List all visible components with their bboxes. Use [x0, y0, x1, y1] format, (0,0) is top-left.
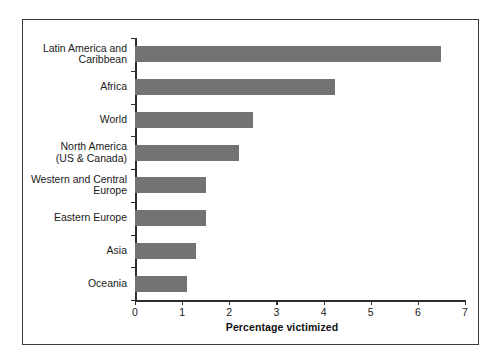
- bar[interactable]: [135, 177, 206, 193]
- bar-row: [135, 104, 465, 137]
- y-axis-category-label: Asia: [0, 245, 127, 257]
- bar[interactable]: [135, 145, 239, 161]
- x-axis-tick-label: 6: [406, 306, 430, 318]
- y-axis-category-label: Eastern Europe: [0, 212, 127, 224]
- bar-row: [135, 267, 465, 300]
- y-axis-tick: [131, 104, 136, 105]
- x-axis-line: [135, 300, 466, 302]
- y-axis-tick: [131, 38, 136, 39]
- x-axis-tick-label: 3: [264, 306, 288, 318]
- x-axis-tick-label: 7: [453, 306, 477, 318]
- bar-row: [135, 71, 465, 104]
- bar[interactable]: [135, 112, 253, 128]
- bar-row: [135, 136, 465, 169]
- y-axis-category-label: World: [0, 114, 127, 126]
- figure: Percentage victimized Latin America and …: [0, 0, 496, 364]
- x-axis-tick: [371, 300, 372, 305]
- y-axis-category-label: Africa: [0, 81, 127, 93]
- x-axis-tick: [182, 300, 183, 305]
- y-axis-category-label: Latin America and Caribbean: [0, 43, 127, 66]
- x-axis-title: Percentage victimized: [0, 321, 496, 333]
- x-axis-tick-label: 5: [359, 306, 383, 318]
- x-axis-tick: [418, 300, 419, 305]
- bar[interactable]: [135, 46, 441, 62]
- bar[interactable]: [135, 243, 196, 259]
- y-axis-tick: [131, 136, 136, 137]
- x-axis-tick-label: 2: [217, 306, 241, 318]
- x-axis-tick-label: 4: [312, 306, 336, 318]
- y-axis-tick: [131, 267, 136, 268]
- bar[interactable]: [135, 276, 187, 292]
- bar-row: [135, 202, 465, 235]
- y-axis-tick: [131, 235, 136, 236]
- x-axis-tick: [276, 300, 277, 305]
- x-axis-title-text: Percentage victimized: [226, 321, 338, 333]
- y-axis-category-label: North America (US & Canada): [0, 141, 127, 164]
- bar-row: [135, 235, 465, 268]
- x-axis-tick: [324, 300, 325, 305]
- y-axis-category-label: Oceania: [0, 278, 127, 290]
- bar[interactable]: [135, 210, 206, 226]
- plot-area: [135, 38, 465, 300]
- y-axis-tick: [131, 71, 136, 72]
- x-axis-tick: [465, 300, 466, 305]
- bar[interactable]: [135, 79, 335, 95]
- x-axis-tick-label: 0: [123, 306, 147, 318]
- x-axis-tick: [135, 300, 136, 305]
- x-axis-tick: [229, 300, 230, 305]
- y-axis-category-label: Western and Central Europe: [0, 174, 127, 197]
- y-axis-tick: [131, 202, 136, 203]
- x-axis-tick-label: 1: [170, 306, 194, 318]
- bar-row: [135, 169, 465, 202]
- y-axis-tick: [131, 169, 136, 170]
- bar-row: [135, 38, 465, 71]
